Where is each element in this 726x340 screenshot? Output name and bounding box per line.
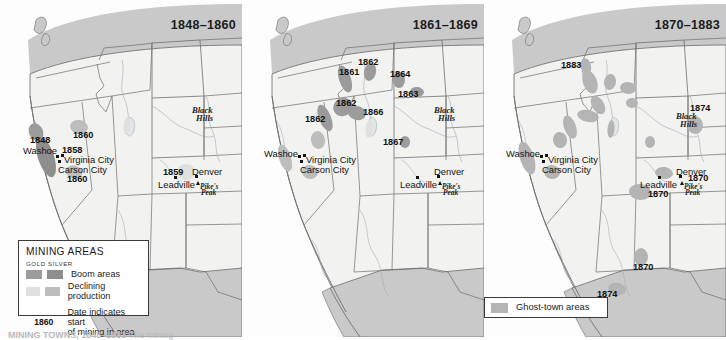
- swatch-gold: [26, 270, 42, 279]
- swatch-gold: [26, 287, 40, 296]
- city-dot: [195, 175, 198, 178]
- figure-caption: MINING TOWNS, 1848–1883 The mining: [8, 330, 173, 340]
- legend-subheads: GOLD SILVER: [26, 260, 142, 267]
- date-label: 1867: [383, 138, 403, 148]
- city-label: Washoe: [264, 149, 298, 159]
- city-dot: [58, 160, 61, 163]
- city-dot: [61, 154, 64, 157]
- panel-1870-1883: 1870–1883188318741870187018701874WashoeV…: [484, 0, 726, 337]
- city-dot: [542, 160, 545, 163]
- city-dot: [437, 175, 440, 178]
- city-dot: [56, 155, 59, 158]
- place-label: Hills: [438, 114, 455, 123]
- city-label: Carson City: [542, 165, 591, 175]
- city-label: Carson City: [300, 165, 349, 175]
- city-dot: [300, 160, 303, 163]
- city-label: Carson City: [58, 165, 107, 175]
- legend-title: MINING AREAS: [26, 246, 142, 257]
- date-label: 1862: [358, 58, 378, 68]
- city-dot: [416, 176, 419, 179]
- swatch-ghost: [491, 303, 508, 313]
- city-label: Leadville: [400, 180, 437, 190]
- peak-label: Peak: [443, 189, 458, 196]
- city-label: Leadville: [158, 180, 195, 190]
- panel-title: 1870–1883: [655, 18, 720, 32]
- panel-title: 1848–1860: [171, 18, 236, 32]
- legend-row-label: Boom areas: [71, 269, 120, 279]
- panel-title: 1861–1869: [413, 18, 478, 32]
- legend-date-line1: Date indicates start: [67, 307, 142, 327]
- city-label: Leadville: [640, 180, 677, 190]
- peak-marker: [196, 181, 200, 185]
- date-label: 1862: [336, 99, 356, 109]
- date-label: 1863: [398, 90, 418, 100]
- swatch-silver: [45, 287, 59, 296]
- city-dot: [303, 154, 306, 157]
- peak-marker: [438, 181, 442, 185]
- mining-areas-legend: MINING AREASGOLD SILVERBoom areasDeclini…: [18, 240, 149, 316]
- peak-label: Peak: [685, 189, 700, 196]
- caption-subtext: The mining: [126, 330, 173, 340]
- legend-row: Declining production: [26, 281, 142, 301]
- city-label: Washoe: [23, 146, 57, 156]
- place-label: Hills: [196, 114, 213, 123]
- place-label: Hills: [680, 120, 697, 129]
- city-label: Washoe: [506, 149, 540, 159]
- city-dot: [540, 155, 543, 158]
- date-label: 1864: [390, 70, 410, 80]
- city-dot: [174, 176, 177, 179]
- city-dot: [658, 176, 661, 179]
- date-label: 1870: [648, 190, 668, 200]
- legend-date-key: 1860: [26, 317, 61, 327]
- ghost-legend-label: Ghost-town areas: [516, 302, 589, 312]
- mining-area-ghost: [645, 136, 655, 148]
- mining-area-ghost: [626, 98, 638, 108]
- date-label: 1883: [561, 61, 581, 71]
- date-label: 1870: [633, 263, 653, 273]
- city-dot: [545, 154, 548, 157]
- ghost-town-legend: Ghost-town areas: [484, 297, 608, 318]
- peak-marker: [680, 181, 684, 185]
- caption-title: MINING TOWNS, 1848–1883: [8, 330, 126, 340]
- date-label: 1862: [305, 115, 325, 125]
- date-label: 1860: [73, 131, 93, 141]
- swatch-silver: [47, 270, 63, 279]
- legend-row-label: Declining production: [68, 281, 142, 301]
- panel-1861-1869: 1861–18691862186118641863186218661862186…: [242, 0, 484, 337]
- city-dot: [679, 175, 682, 178]
- date-label: 1861: [339, 68, 359, 78]
- date-label: 1866: [363, 108, 383, 118]
- legend-row: Boom areas: [26, 269, 142, 279]
- peak-label: Peak: [201, 189, 216, 196]
- city-dot: [298, 155, 301, 158]
- date-label: 1860: [67, 175, 87, 185]
